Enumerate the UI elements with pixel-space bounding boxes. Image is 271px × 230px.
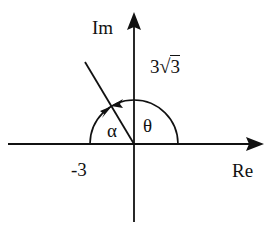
- imag-radical: 3: [170, 55, 180, 77]
- theta-label: θ: [143, 116, 152, 135]
- imag-axis-label: Im: [92, 18, 113, 37]
- imag-part-label: 3√3: [150, 56, 180, 76]
- alpha-arc-arrow-icon: [100, 106, 112, 118]
- real-part-label: -3: [71, 160, 87, 179]
- alpha-label: α: [107, 121, 117, 140]
- imag-coef: 3: [150, 56, 160, 77]
- theta-arc-arrow-icon: [111, 99, 123, 108]
- real-axis-label: Re: [232, 161, 253, 180]
- argand-diagram: Im Re -3 3√3 α θ: [0, 0, 271, 230]
- diagram-canvas: [0, 0, 271, 230]
- sqrt-symbol-icon: √: [160, 55, 171, 77]
